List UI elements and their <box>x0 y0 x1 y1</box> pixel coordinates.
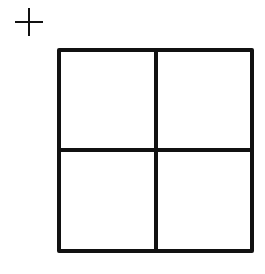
diagram-svg <box>0 0 265 274</box>
two-by-two-grid <box>59 50 252 251</box>
diagram-canvas <box>0 0 265 274</box>
plus-icon <box>15 8 43 36</box>
